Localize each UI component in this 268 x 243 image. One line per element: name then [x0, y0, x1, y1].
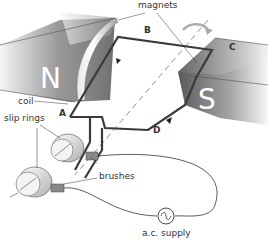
slip-rings-label: slip rings [4, 113, 45, 123]
south-magnet [178, 38, 268, 125]
magnets-label: magnets [138, 0, 177, 10]
south-pole-label: S [198, 83, 216, 116]
external-circuit [64, 154, 217, 224]
coil-label: coil [18, 96, 33, 106]
north-pole-label: N [40, 62, 61, 95]
slip-rings [10, 134, 84, 197]
point-a-label: A [59, 108, 66, 118]
point-b-label: B [144, 25, 151, 35]
ac-supply-label: a.c. supply [142, 228, 191, 238]
point-d-label: D [153, 125, 160, 135]
point-c-label: C [229, 42, 236, 52]
brushes-label: brushes [99, 171, 135, 181]
